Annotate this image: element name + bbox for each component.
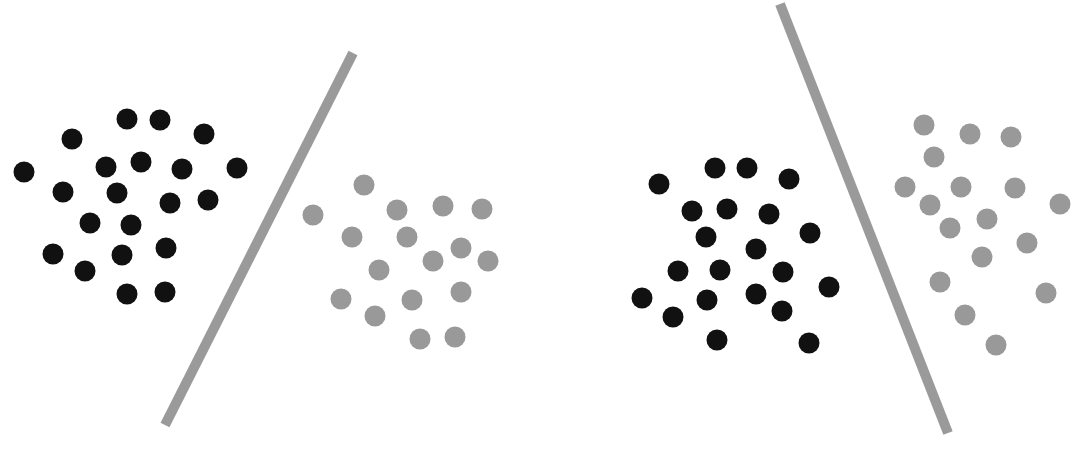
class-a-point <box>717 199 738 220</box>
class-b-point <box>410 329 431 350</box>
class-a-point <box>117 284 138 305</box>
class-a-point <box>668 261 689 282</box>
class-b-point <box>478 251 499 272</box>
class-a-point <box>710 260 731 281</box>
class-b-point <box>342 227 363 248</box>
class-a-point <box>779 169 800 190</box>
class-a-point <box>62 129 83 150</box>
separating-hyperplane-diagram <box>0 0 1079 449</box>
class-a-point <box>160 193 181 214</box>
class-a-point <box>131 152 152 173</box>
class-b-point <box>397 227 418 248</box>
class-a-point <box>121 215 142 236</box>
class-b-point <box>1005 178 1026 199</box>
class-a-point <box>819 277 840 298</box>
class-a-point <box>156 238 177 259</box>
class-b-point <box>924 147 945 168</box>
class-a-point <box>117 109 138 130</box>
class-b-point <box>914 115 935 136</box>
class-a-point <box>773 262 794 283</box>
class-a-point <box>53 182 74 203</box>
class-a-point <box>707 330 728 351</box>
class-a-point <box>705 158 726 179</box>
class-b-point <box>930 272 951 293</box>
class-a-points <box>14 109 248 305</box>
class-b-points <box>895 115 1071 356</box>
class-a-point <box>172 159 193 180</box>
class-b-point <box>940 218 961 239</box>
class-b-point <box>423 251 444 272</box>
class-b-point <box>955 305 976 326</box>
class-a-point <box>772 301 793 322</box>
class-a-point <box>96 157 117 178</box>
class-a-point <box>107 183 128 204</box>
class-a-point <box>697 290 718 311</box>
class-b-point <box>960 124 981 145</box>
class-a-point <box>649 174 670 195</box>
class-b-point <box>451 238 472 259</box>
class-a-point <box>75 261 96 282</box>
class-a-point <box>112 245 133 266</box>
class-a-point <box>746 239 767 260</box>
class-b-point <box>387 200 408 221</box>
class-a-point <box>663 307 684 328</box>
class-b-point <box>402 290 423 311</box>
class-a-point <box>799 333 820 354</box>
class-a-point <box>759 204 780 225</box>
class-b-point <box>920 195 941 216</box>
class-a-point <box>696 227 717 248</box>
diagram-svg <box>0 0 1079 449</box>
class-b-point <box>445 327 466 348</box>
separator-line <box>780 4 948 433</box>
class-b-point <box>354 175 375 196</box>
class-b-point <box>472 199 493 220</box>
class-b-point <box>451 282 472 303</box>
class-b-point <box>433 196 454 217</box>
class-b-point <box>331 289 352 310</box>
class-b-point <box>895 177 916 198</box>
class-b-point <box>977 209 998 230</box>
class-a-point <box>80 213 101 234</box>
class-a-point <box>198 190 219 211</box>
class-b-point <box>369 260 390 281</box>
class-a-point <box>150 110 171 131</box>
class-b-point <box>972 247 993 268</box>
class-b-point <box>1050 194 1071 215</box>
class-a-point <box>227 158 248 179</box>
class-a-point <box>43 244 64 265</box>
class-a-point <box>682 201 703 222</box>
class-b-point <box>1001 127 1022 148</box>
class-b-point <box>1017 233 1038 254</box>
class-a-point <box>14 162 35 183</box>
class-b-point <box>1036 283 1057 304</box>
left-panel <box>14 53 499 425</box>
class-b-point <box>986 335 1007 356</box>
class-b-point <box>303 205 324 226</box>
class-a-points <box>632 158 840 354</box>
right-panel <box>632 4 1071 433</box>
class-b-point <box>951 177 972 198</box>
class-a-point <box>632 288 653 309</box>
class-a-point <box>800 223 821 244</box>
class-a-point <box>746 284 767 305</box>
class-b-point <box>365 306 386 327</box>
class-a-point <box>155 282 176 303</box>
class-b-points <box>303 175 499 350</box>
separator-line <box>165 53 353 425</box>
class-a-point <box>194 124 215 145</box>
class-a-point <box>737 158 758 179</box>
